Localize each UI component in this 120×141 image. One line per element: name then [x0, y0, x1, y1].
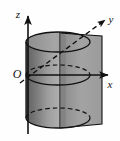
cutting-plane [60, 33, 102, 128]
z-axis-label: z [15, 8, 21, 20]
x-axis-label: x [107, 78, 113, 90]
origin-point [27, 74, 29, 76]
origin-label: O [13, 67, 22, 81]
plane-cylinder-intersection-shade [60, 33, 66, 128]
figure-container: z y x O [0, 0, 120, 141]
cylinder-plane-diagram: z y x O [0, 0, 120, 141]
y-axis-label: y [108, 13, 114, 25]
